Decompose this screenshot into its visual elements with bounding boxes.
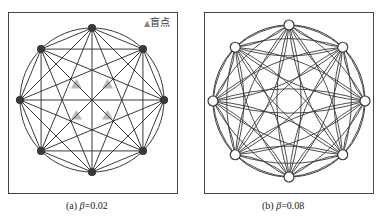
figure-canvas xyxy=(0,0,376,218)
panel-b-graph xyxy=(208,20,370,182)
caption-b: (b) β=0.08 xyxy=(262,200,304,211)
panel-a-graph xyxy=(17,25,168,176)
panel-a-frame xyxy=(9,13,178,194)
caption-a: (a) β=0.02 xyxy=(66,200,108,211)
legend: ▲盲点 xyxy=(144,14,170,29)
legend-label: 盲点 xyxy=(150,17,170,28)
